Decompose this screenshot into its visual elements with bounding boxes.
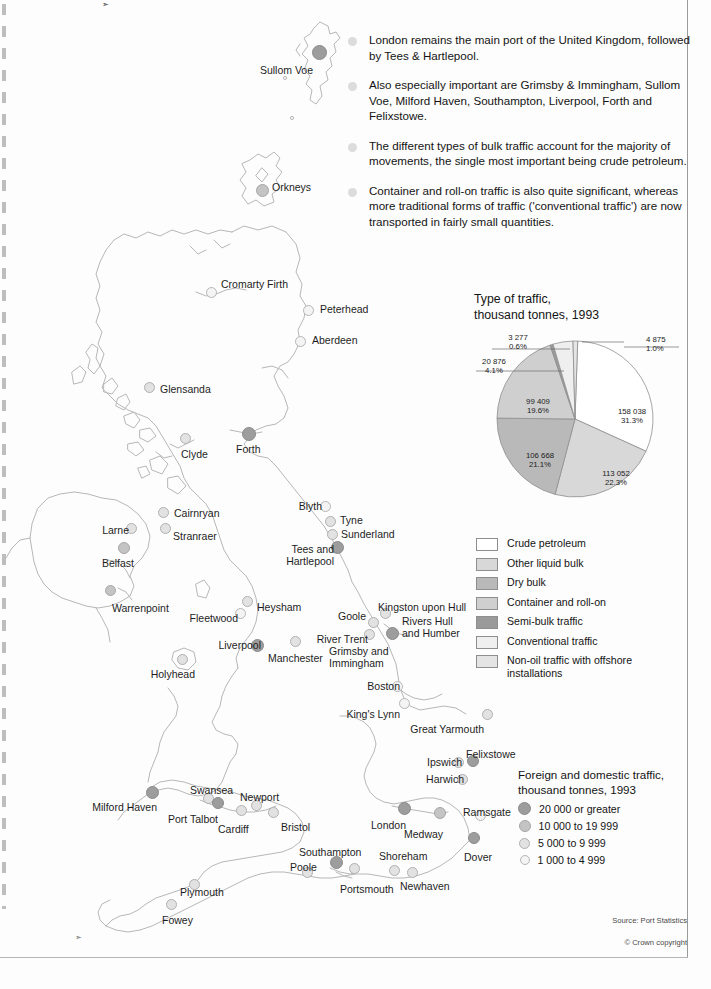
port-marker <box>398 802 411 815</box>
legend-swatch-icon <box>476 558 498 571</box>
port-label: Glensanda <box>160 383 222 395</box>
pie-title-line1: Type of traffic, <box>474 292 689 308</box>
size-legend-row: 10 000 to 19 999 <box>518 820 698 832</box>
pie-slice-value-label: 99 409 19.6% <box>508 397 568 416</box>
size-legend-circle-icon <box>518 802 531 815</box>
legend-swatch-icon <box>476 616 498 629</box>
port-label: Cromarty Firth <box>221 278 301 290</box>
legend-row: Dry bulk <box>476 576 688 590</box>
port-marker <box>158 507 169 518</box>
legend-label: Dry bulk <box>507 576 546 589</box>
key-findings-list: London remains the main port of the Unit… <box>348 32 696 243</box>
port-label: Cardiff <box>218 823 262 835</box>
pie-slice-value-label: 113 052 22.3% <box>586 469 646 488</box>
port-label: Great Yarmouth <box>408 723 484 735</box>
key-finding-text: Container and roll-on traffic is also qu… <box>369 183 696 230</box>
pie-slice-value-label: 4 875 1.0% <box>646 335 690 354</box>
port-marker <box>312 45 327 60</box>
port-marker <box>399 698 410 709</box>
legend-label: Non-oil traffic with offshore installati… <box>507 654 688 680</box>
port-label: Stranraer <box>173 530 233 542</box>
pie-slice-value-label: 3 277 0.6% <box>496 333 540 352</box>
legend-row: Container and roll-on <box>476 596 688 610</box>
port-label: Dover <box>464 851 504 863</box>
port-label: Grimsby and Immingham <box>329 645 401 669</box>
pie-slice-value-label: 158 038 31.3% <box>602 407 662 426</box>
legend-row: Semi-bulk traffic <box>476 615 688 629</box>
port-marker <box>482 709 493 720</box>
port-marker <box>325 516 336 527</box>
bullet-dot-icon <box>348 82 357 91</box>
port-marker <box>303 305 314 316</box>
port-marker <box>144 382 155 393</box>
size-legend-label: 10 000 to 19 999 <box>539 820 619 832</box>
port-label: Orkneys <box>272 181 332 193</box>
key-finding-text: Also especially important are Grimsby & … <box>369 77 696 124</box>
port-label: Liverpool <box>203 639 261 651</box>
port-label: Felixstowe <box>466 748 528 760</box>
traffic-type-legend: Crude petroleumOther liquid bulkDry bulk… <box>476 537 688 686</box>
port-label: Plymouth <box>180 886 234 898</box>
port-label: Southampton <box>299 846 375 858</box>
port-marker <box>105 585 116 596</box>
port-label: Warrenpoint <box>112 602 184 614</box>
size-legend-label: 1 000 to 4 999 <box>538 854 606 866</box>
legend-swatch-icon <box>476 636 498 649</box>
pie-title-line2: thousand tonnes, 1993 <box>474 308 689 324</box>
port-marker <box>407 867 418 878</box>
port-label: River Trent <box>312 633 368 645</box>
port-label: Larne <box>97 524 129 536</box>
port-marker <box>180 433 191 444</box>
port-marker <box>256 184 269 197</box>
legend-row: Crude petroleum <box>476 537 688 551</box>
pie-slice-value-label: 20 876 4.1% <box>472 357 516 376</box>
size-legend-rows: 20 000 or greater10 000 to 19 9995 000 t… <box>518 802 698 866</box>
port-label: Ipswich <box>418 756 462 768</box>
port-marker <box>295 336 306 347</box>
port-label: Blyth <box>290 500 322 512</box>
port-label: Tyne <box>340 514 374 526</box>
key-finding-text: London remains the main port of the Unit… <box>369 32 696 63</box>
port-marker <box>434 807 446 819</box>
size-legend-title-line1: Foreign and domestic traffic, <box>518 768 698 783</box>
port-marker <box>160 523 171 534</box>
page-canvas: ➣ ➣ <box>0 0 711 989</box>
port-label: Fowey <box>162 914 202 926</box>
legend-swatch-icon <box>476 597 498 610</box>
port-marker <box>177 654 188 665</box>
port-label: Belfast <box>92 557 134 569</box>
legend-swatch-icon <box>476 655 498 668</box>
port-label: Manchester <box>268 652 336 664</box>
port-marker <box>166 899 177 910</box>
port-label: Rivers Hull and Humber <box>402 615 468 639</box>
port-label: Heysham <box>257 601 313 613</box>
source-note: Source: Port Statistics <box>612 916 687 925</box>
size-legend-title-line2: thousand tonnes, 1993 <box>518 783 698 798</box>
key-finding-item: Container and roll-on traffic is also qu… <box>348 183 696 230</box>
port-label: Newhaven <box>400 880 458 892</box>
pie-slice-value-label: 106 668 21.1% <box>510 451 570 470</box>
page-border-bottom <box>0 957 688 958</box>
bullet-dot-icon <box>348 188 357 197</box>
port-label: Boston <box>358 680 400 692</box>
size-legend-circle-icon <box>519 820 531 832</box>
port-label: Bristol <box>281 821 323 833</box>
bullet-dot-icon <box>348 37 357 46</box>
copyright-note: © Crown copyright <box>624 938 687 947</box>
size-legend-row: 5 000 to 9 999 <box>518 837 698 849</box>
bullet-dot-icon <box>348 143 357 152</box>
legend-row: Non-oil traffic with offshore installati… <box>476 654 688 680</box>
port-marker <box>386 627 399 640</box>
key-finding-item: London remains the main port of the Unit… <box>348 32 696 63</box>
port-marker <box>268 807 279 818</box>
size-legend-row: 1 000 to 4 999 <box>518 854 698 866</box>
traffic-type-chart: Type of traffic, thousand tonnes, 1993 1… <box>474 292 689 514</box>
port-label: Milford Haven <box>83 801 157 813</box>
port-marker <box>242 427 256 441</box>
port-label: Cairnryan <box>174 507 234 519</box>
key-finding-text: The different types of bulk traffic acco… <box>369 138 696 169</box>
size-legend-row: 20 000 or greater <box>518 802 698 815</box>
key-finding-item: Also especially important are Grimsby & … <box>348 77 696 124</box>
port-label: Peterhead <box>320 303 382 315</box>
port-label: Holyhead <box>139 668 195 680</box>
